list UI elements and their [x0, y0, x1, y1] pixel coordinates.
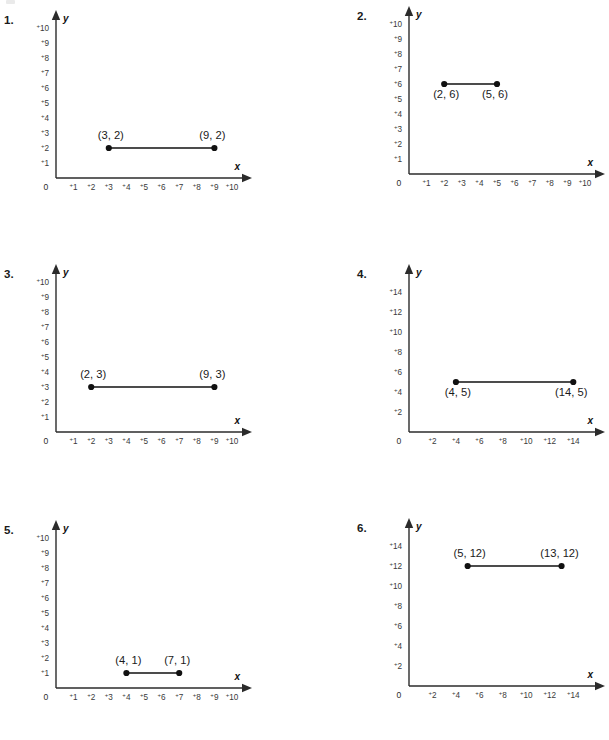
tick-value: 4 — [126, 183, 131, 192]
tick-value: 7 — [179, 437, 184, 446]
x-tick-label: +4 — [475, 178, 484, 188]
tick-value: 14 — [570, 691, 580, 700]
problem-cell-5: 5. yx0+1+2+3+4+5+6+7+8+9+10+1+2+3+4+5+6+… — [0, 510, 293, 740]
y-tick-label: +4 — [41, 623, 50, 633]
x-tick-label: +8 — [193, 436, 202, 446]
tick-value: 12 — [393, 308, 403, 317]
x-tick-label: +7 — [175, 692, 184, 702]
tick-value: 4 — [44, 114, 49, 123]
tick-value: 7 — [179, 693, 184, 702]
y-tick-label: +4 — [394, 109, 403, 119]
tick-value: 1 — [397, 155, 402, 164]
tick-value: 7 — [44, 69, 49, 78]
y-tick-label: +2 — [41, 143, 50, 153]
y-tick-label: +6 — [394, 621, 403, 631]
point-label-b: (7, 1) — [164, 654, 190, 666]
endpoint-dot-a — [106, 145, 112, 151]
x-tick-label: +1 — [70, 436, 79, 446]
x-axis-label: x — [233, 671, 240, 682]
tick-value: 9 — [214, 693, 219, 702]
tick-value: 2 — [44, 654, 49, 663]
endpoint-dot-b — [176, 670, 182, 676]
y-tick-label: +8 — [41, 307, 50, 317]
y-tick-label: +10 — [389, 19, 402, 29]
y-tick-label: +14 — [389, 287, 402, 297]
tick-value: 2 — [44, 398, 49, 407]
x-tick-label: +2 — [440, 178, 449, 188]
tick-value: 4 — [479, 179, 484, 188]
x-tick-label: +5 — [493, 178, 502, 188]
y-tick-label: +10 — [36, 277, 49, 287]
tick-value: 10 — [40, 278, 50, 287]
y-tick-label: +3 — [41, 128, 50, 138]
tick-value: 2 — [91, 437, 96, 446]
x-axis-label: x — [586, 669, 593, 680]
x-axis-label: x — [233, 415, 240, 426]
x-tick-label: +1 — [70, 182, 79, 192]
point-label-b: (9, 2) — [199, 129, 225, 141]
point-label-a: (4, 5) — [445, 386, 471, 398]
x-tick-label: +1 — [423, 178, 432, 188]
tick-value: 2 — [432, 437, 437, 446]
origin-label: 0 — [397, 436, 402, 446]
tick-value: 1 — [44, 413, 49, 422]
x-tick-label: +10 — [226, 436, 239, 446]
endpoint-dot-a — [465, 563, 471, 569]
tick-value: 6 — [44, 594, 49, 603]
x-axis-label: x — [586, 415, 593, 426]
tick-value: 6 — [479, 691, 484, 700]
point-label-a: (3, 2) — [98, 129, 124, 141]
y-tick-label: +5 — [41, 352, 50, 362]
tick-value: 6 — [397, 622, 402, 631]
tick-value: 12 — [547, 437, 557, 446]
tick-value: 9 — [44, 39, 49, 48]
tick-value: 6 — [514, 179, 519, 188]
point-label-b: (13, 12) — [540, 547, 579, 559]
tick-value: 2 — [91, 693, 96, 702]
graph-5: yx0+1+2+3+4+5+6+7+8+9+10+1+2+3+4+5+6+7+8… — [26, 516, 276, 726]
x-axis-arrow-icon — [595, 428, 605, 436]
tick-value: 2 — [397, 140, 402, 149]
tick-value: 4 — [397, 642, 402, 651]
y-tick-label: +5 — [41, 98, 50, 108]
x-tick-label: +8 — [193, 182, 202, 192]
tick-value: 8 — [397, 602, 402, 611]
y-tick-label: +7 — [394, 64, 403, 74]
tick-value: 1 — [73, 437, 78, 446]
y-tick-label: +12 — [389, 307, 402, 317]
tick-value: 7 — [44, 323, 49, 332]
tick-value: 9 — [44, 293, 49, 302]
y-tick-label: +8 — [41, 53, 50, 63]
tick-value: 6 — [479, 437, 484, 446]
y-axis-arrow-icon — [405, 6, 413, 16]
x-tick-label: +10 — [579, 178, 592, 188]
tick-value: 10 — [582, 179, 592, 188]
problem-number-1: 1. — [4, 14, 14, 26]
x-tick-label: +14 — [567, 436, 580, 446]
tick-value: 10 — [393, 328, 403, 337]
y-tick-label: +5 — [394, 94, 403, 104]
tick-value: 10 — [524, 437, 534, 446]
x-tick-label: +5 — [140, 182, 149, 192]
y-tick-label: +8 — [41, 563, 50, 573]
y-axis-arrow-icon — [405, 518, 413, 528]
tick-value: 1 — [73, 693, 78, 702]
x-tick-label: +2 — [428, 436, 437, 446]
y-tick-label: +4 — [394, 387, 403, 397]
y-tick-label: +10 — [389, 327, 402, 337]
x-axis-label: x — [233, 161, 240, 172]
graph-4: yx0+2+4+6+8+10+12+14+2+4+6+8+10+12+14(4,… — [379, 260, 609, 470]
tick-value: 8 — [44, 308, 49, 317]
x-tick-label: +8 — [546, 178, 555, 188]
problem-number-5: 5. — [4, 524, 14, 536]
problem-number-3: 3. — [4, 268, 14, 280]
tick-value: 5 — [496, 179, 501, 188]
x-tick-label: +3 — [105, 692, 114, 702]
tick-value: 10 — [229, 183, 239, 192]
x-tick-label: +7 — [175, 436, 184, 446]
x-axis-arrow-icon — [595, 682, 605, 690]
y-axis-label: y — [415, 521, 422, 532]
tick-value: 4 — [397, 388, 402, 397]
